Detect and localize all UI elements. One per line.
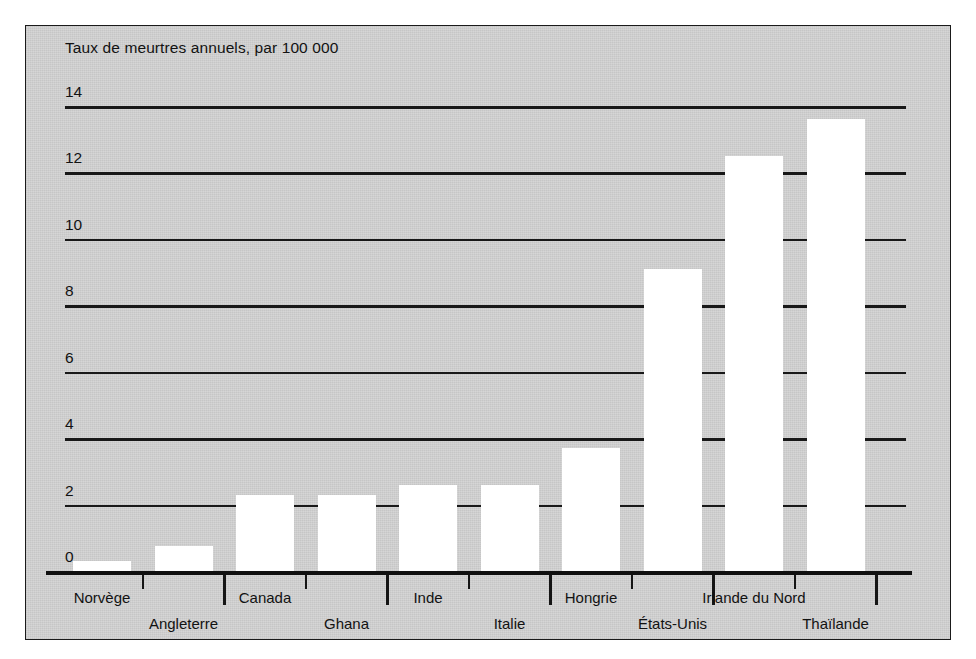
- x-axis-tick: [549, 575, 552, 605]
- x-tick-label: Ghana: [324, 615, 369, 632]
- x-tick-label: Italie: [494, 615, 526, 632]
- bar: [644, 269, 702, 571]
- x-tick-label: Norvège: [74, 589, 131, 606]
- x-axis-tick: [223, 575, 226, 605]
- plot-area: Taux de meurtres annuels, par 100 000 02…: [26, 26, 950, 639]
- bar: [73, 561, 131, 571]
- x-tick-label: Canada: [239, 589, 292, 606]
- x-axis-line: [46, 571, 912, 575]
- chart-figure: Taux de meurtres annuels, par 100 000 02…: [25, 25, 951, 640]
- x-tick-label: États-Unis: [638, 615, 707, 632]
- bar: [807, 119, 865, 571]
- bar: [725, 156, 783, 571]
- y-tick-label: 12: [65, 149, 82, 167]
- y-tick-label: 10: [65, 216, 82, 234]
- y-tick-label: 6: [65, 349, 74, 367]
- y-tick-label: 2: [65, 482, 74, 500]
- bar: [399, 485, 457, 571]
- bar: [318, 495, 376, 571]
- bar: [155, 546, 213, 571]
- chart-title: Taux de meurtres annuels, par 100 000: [65, 39, 338, 57]
- bar: [562, 448, 620, 571]
- x-axis-tick: [875, 575, 878, 605]
- x-axis-tick: [468, 575, 471, 589]
- x-tick-label: Angleterre: [149, 615, 218, 632]
- x-tick-label: Hongrie: [565, 589, 618, 606]
- y-tick-label: 14: [65, 83, 82, 101]
- bar: [236, 495, 294, 571]
- y-tick-label: 8: [65, 282, 74, 300]
- x-axis-tick: [386, 575, 389, 605]
- x-tick-label: Inde: [413, 589, 442, 606]
- x-axis-tick: [631, 575, 634, 589]
- bar: [481, 485, 539, 571]
- x-tick-label: Irlande du Nord: [702, 589, 805, 606]
- y-tick-label: 4: [65, 415, 74, 433]
- x-axis-tick: [305, 575, 308, 589]
- x-axis-tick: [142, 575, 145, 589]
- x-axis-tick: [794, 575, 797, 589]
- gridline-14: [65, 106, 906, 109]
- x-tick-label: Thaïlande: [802, 615, 869, 632]
